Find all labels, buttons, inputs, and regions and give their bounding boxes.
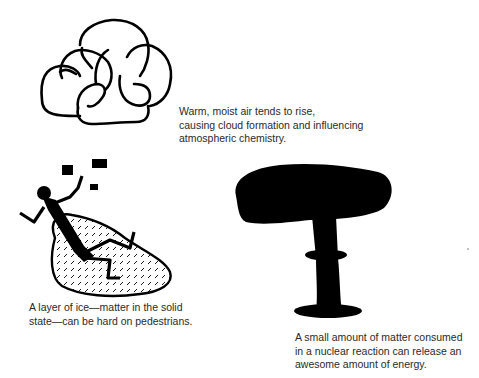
caption-line: A small amount of matter consumed [295,331,463,345]
caption-line: state—can be hard on pedestrians. [29,315,192,329]
caption-line: A layer of ice—matter in the solid [29,301,192,315]
caption-nuclear: A small amount of matter consumed in a n… [295,331,463,372]
caption-solid: A layer of ice—matter in the solid state… [29,301,192,328]
caption-line: Warm, moist air tends to rise, [179,105,363,119]
person-slipping-on-ice-icon [20,159,171,296]
cloud-icon [42,20,172,124]
caption-line: causing cloud formation and influencing [179,119,363,133]
caption-line: atmospheric chemistry. [179,132,363,146]
mushroom-cloud-icon [235,164,391,318]
caption-line: awesome amount of energy. [295,358,463,372]
caption-gas: Warm, moist air tends to rise, causing c… [179,105,363,146]
caption-line: in a nuclear reaction can release an [295,345,463,359]
